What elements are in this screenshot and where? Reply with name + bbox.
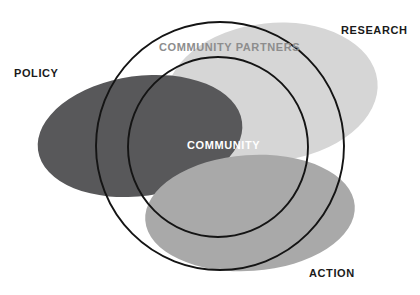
label-action: ACTION (309, 267, 355, 279)
label-research: RESEARCH (341, 24, 408, 36)
venn-diagram: POLICY RESEARCH ACTION COMMUNITY PARTNER… (0, 0, 420, 295)
label-policy: POLICY (14, 67, 59, 79)
label-community-partners: COMMUNITY PARTNERS (159, 41, 300, 53)
label-community: COMMUNITY (187, 139, 260, 151)
